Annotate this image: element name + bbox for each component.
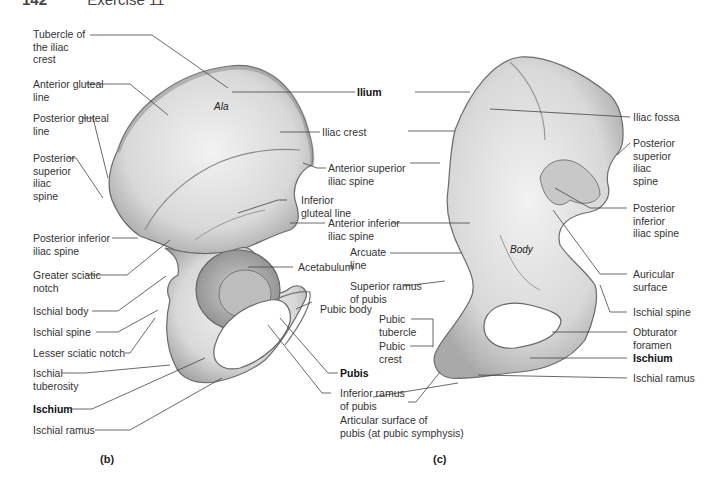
label-ischium-c: Ischium [633, 352, 673, 365]
label-posterior-gluteal-line: Posterior gluteal line [33, 112, 109, 137]
label-pubis: Pubis [340, 367, 369, 380]
caption-c: (c) [433, 453, 446, 465]
label-posterior-inferior-iliac-spine-c: Posterior inferior iliac spine [633, 202, 679, 240]
label-ischial-spine-b: Ischial spine [33, 326, 91, 339]
label-ischial-ramus-b: Ischial ramus [33, 424, 95, 437]
label-articular-surface-of-pubis: Articular surface of pubis (at pubic sym… [340, 414, 464, 439]
label-acetabulum: Acetabulum [298, 261, 353, 274]
hip-bone-lateral-view: Ala [109, 65, 313, 382]
hip-bone-medial-view: Body [434, 57, 623, 379]
label-superior-ramus-of-pubis: Superior ramus of pubis [350, 280, 422, 305]
label-anterior-superior-iliac-spine: Anterior superior iliac spine [328, 162, 406, 187]
label-ilium: Ilium [357, 86, 382, 99]
label-inferior-gluteal-line: Inferior gluteal line [301, 194, 351, 219]
label-ischial-tuberosity: Ischial tuberosity [33, 367, 79, 392]
label-posterior-superior-iliac-spine-b: Posterior superior iliac spine [33, 152, 75, 202]
caption-b: (b) [100, 453, 114, 465]
body-region-label: Body [510, 244, 534, 255]
label-anterior-inferior-iliac-spine: Anterior inferior iliac spine [328, 217, 400, 242]
label-auricular-surface: Auricular surface [633, 268, 674, 293]
label-iliac-fossa: Iliac fossa [633, 111, 680, 124]
label-ischial-spine-c: Ischial spine [633, 306, 691, 319]
ala-region-label: Ala [213, 101, 229, 112]
label-arcuate-line: Arcuate line [350, 246, 386, 271]
label-lesser-sciatic-notch: Lesser sciatic notch [33, 347, 125, 360]
label-anterior-gluteal-line: Anterior gluteal line [33, 78, 104, 103]
label-pubic-tubercle: Pubic tubercle [379, 313, 416, 338]
label-obturator-foramen: Obturator foramen [633, 326, 677, 351]
label-posterior-superior-iliac-spine-c: Posterior superior iliac spine [633, 137, 675, 187]
label-ischial-body: Ischial body [33, 305, 88, 318]
label-iliac-crest: Iliac crest [322, 126, 366, 139]
label-inferior-ramus-of-pubis: Inferior ramus of pubis [340, 387, 405, 412]
label-tubercle-of-iliac-crest: Tubercle of the iliac crest [33, 28, 85, 66]
label-posterior-inferior-iliac-spine-b: Posterior inferior iliac spine [33, 232, 110, 257]
label-ischium-b: Ischium [33, 403, 73, 416]
label-ischial-ramus-c: Ischial ramus [633, 372, 695, 385]
label-greater-sciatic-notch: Greater sciatic notch [33, 269, 101, 294]
label-pubic-crest: Pubic crest [379, 340, 405, 365]
